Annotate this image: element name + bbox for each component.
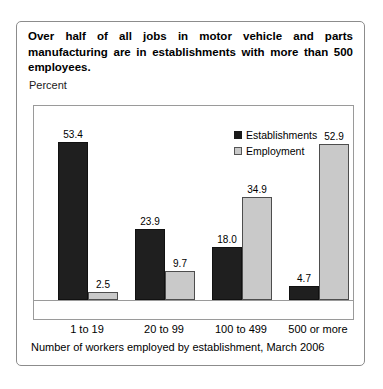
page-title: Over half of all jobs in motor vehicle a… (28, 29, 353, 76)
bar-groups: 53.4 2.5 23.9 9.7 (34, 106, 353, 319)
bar-group-20-to-99: 23.9 9.7 (129, 216, 201, 300)
bar-rect (88, 292, 118, 300)
bar-rect (289, 286, 319, 300)
x-axis-baseline (34, 300, 353, 301)
bar-group-500-or-more: 4.7 52.9 (283, 131, 355, 300)
x-tick-label: 100 to 499 (205, 322, 277, 336)
bar-establishments: 53.4 (58, 129, 88, 300)
bar-rect (165, 271, 195, 300)
bar-value-label: 34.9 (247, 184, 266, 196)
bar-rect (135, 229, 165, 300)
bar-value-label: 23.9 (140, 216, 159, 228)
x-tick-label: 20 to 99 (128, 322, 200, 336)
bar-employment: 52.9 (319, 131, 349, 300)
bar-establishments: 18.0 (212, 234, 242, 300)
bar-establishments: 23.9 (135, 216, 165, 300)
plot-area: Establishments Employment 53.4 2.5 (33, 105, 354, 320)
y-axis-label: Percent (29, 79, 67, 92)
bar-rect (242, 197, 272, 300)
x-axis-caption: Number of workers employed by establishm… (31, 340, 356, 354)
bar-value-label: 9.7 (173, 258, 187, 270)
bar-group-1-to-19: 53.4 2.5 (52, 129, 124, 300)
chart-card: Over half of all jobs in motor vehicle a… (16, 21, 365, 366)
bar-value-label: 52.9 (324, 131, 343, 143)
bar-employment: 9.7 (165, 258, 195, 300)
x-axis-tick-labels: 1 to 19 20 to 99 100 to 499 500 or more (33, 322, 354, 338)
bar-value-label: 53.4 (63, 129, 82, 141)
bar-rect (212, 247, 242, 300)
bar-establishments: 4.7 (289, 273, 319, 300)
bar-group-100-to-499: 18.0 34.9 (206, 184, 278, 300)
x-tick-label: 500 or more (282, 322, 354, 336)
bar-value-label: 2.5 (96, 279, 110, 291)
bar-rect (319, 144, 349, 300)
bar-value-label: 4.7 (297, 273, 311, 285)
bar-employment: 2.5 (88, 279, 118, 300)
bar-rect (58, 142, 88, 300)
bar-value-label: 18.0 (217, 234, 236, 246)
bar-employment: 34.9 (242, 184, 272, 300)
x-tick-label: 1 to 19 (51, 322, 123, 336)
chart-screenshot: Over half of all jobs in motor vehicle a… (0, 0, 383, 389)
